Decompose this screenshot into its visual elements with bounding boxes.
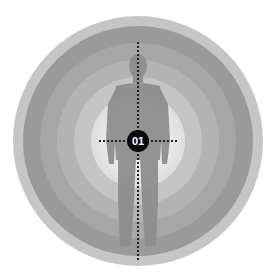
target-illustration: 01 [0,0,273,276]
target-marker-badge: 01 [127,130,149,152]
